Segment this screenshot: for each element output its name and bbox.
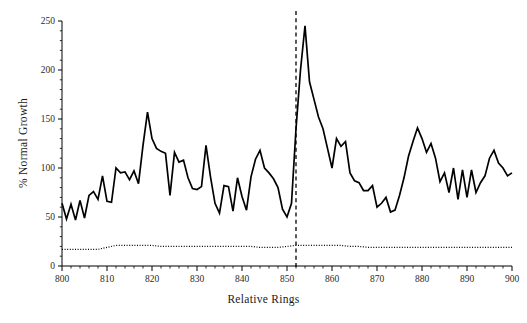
y-tick-label: 0 [50, 261, 55, 271]
tick-label-group: 0501001502002508008108208308408508608708… [41, 16, 520, 284]
x-tick-label: 830 [190, 274, 205, 284]
x-tick-label: 850 [280, 274, 295, 284]
growth-chart: 0501001502002508008108208308408508608708… [0, 0, 527, 323]
x-tick-label: 820 [145, 274, 160, 284]
x-axis-title: Relative Rings [0, 293, 527, 305]
x-tick-label: 860 [325, 274, 340, 284]
y-axis-title: % Normal Growth [17, 73, 29, 213]
y-tick-label: 100 [41, 163, 56, 173]
y-tick-label: 200 [41, 65, 56, 75]
series-group [62, 26, 512, 249]
chart-plot-area: 0501001502002508008108208308408508608708… [0, 0, 527, 323]
axis-group [58, 21, 512, 271]
x-tick-label: 840 [235, 274, 250, 284]
x-tick-label: 890 [460, 274, 475, 284]
y-tick-label: 250 [41, 16, 56, 26]
series-line-2 [62, 245, 512, 249]
x-tick-label: 800 [55, 274, 70, 284]
x-tick-label: 880 [415, 274, 430, 284]
y-tick-label: 50 [46, 212, 56, 222]
x-tick-label: 870 [370, 274, 385, 284]
y-tick-label: 150 [41, 114, 56, 124]
x-tick-label: 900 [505, 274, 520, 284]
x-tick-label: 810 [100, 274, 115, 284]
series-line-1 [62, 26, 512, 220]
